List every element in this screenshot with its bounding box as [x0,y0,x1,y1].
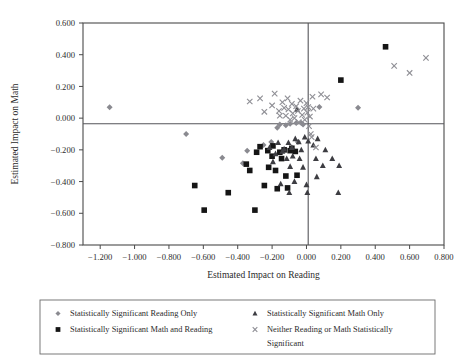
legend-label: Statistically Significant Math Only [267,309,385,318]
legend-marker-square [56,327,61,332]
data-point-square [257,144,263,150]
scatter-plot-figure: −1.200−1.000−0.800−0.600−0.400−0.2000.00… [0,0,469,363]
x-axis-title: Estimated Impact on Reading [207,270,320,280]
data-point-square [244,161,250,167]
data-point-square [252,207,258,213]
x-tick-label: 0.600 [400,252,419,262]
data-point-square [266,165,272,171]
data-point-square [225,190,231,196]
data-point-square [283,173,289,179]
data-point-square [285,185,291,191]
data-point-square [273,168,279,174]
y-axis-title: Estimated Impact on Math [10,83,20,184]
x-tick-label: 0.400 [366,252,385,262]
y-tick-label: −0.600 [51,208,75,218]
y-tick-label: 0.400 [56,50,75,60]
x-tick-label: 0.800 [434,252,453,262]
data-point-square [192,183,198,189]
x-tick-label: 0.200 [331,252,350,262]
data-point-square [338,77,344,83]
data-point-square [294,172,300,178]
data-point-square [254,149,260,155]
y-tick-label: 0.000 [56,113,75,123]
data-point-square [247,168,253,174]
legend-label: Significant [267,339,304,348]
y-tick-label: −0.800 [51,240,75,250]
legend-label: Neither Reading or Math Statistically [267,325,393,334]
data-point-square [201,207,207,213]
legend-label: Statistically Significant Math and Readi… [70,325,213,334]
x-tick-label: −0.400 [226,252,250,262]
x-tick-label: −1.200 [88,252,112,262]
legend-label: Statistically Significant Reading Only [70,309,198,318]
y-tick-label: −0.400 [51,177,75,187]
data-point-square [383,44,389,50]
x-tick-label: −0.800 [157,252,181,262]
y-tick-label: 0.600 [56,18,75,28]
y-tick-label: −0.200 [51,145,75,155]
x-tick-label: −0.600 [191,252,215,262]
y-tick-label: 0.200 [56,82,75,92]
data-point-square [279,156,285,162]
x-tick-label: 0.000 [297,252,316,262]
x-tick-label: −0.200 [260,252,284,262]
x-tick-label: −1.000 [122,252,146,262]
data-point-square [262,183,268,189]
data-point-square [274,186,280,192]
